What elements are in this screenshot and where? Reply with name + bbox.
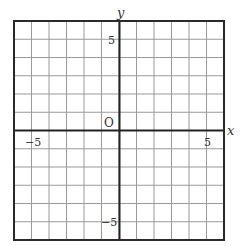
tick-label-y-positive: 5 <box>108 34 115 47</box>
tick-label-x-negative: −5 <box>25 136 41 149</box>
x-axis-label: x <box>227 123 235 138</box>
coordinate-plane: y x O 5 −5 −5 5 <box>0 0 242 246</box>
tick-label-y-negative: −5 <box>101 216 117 229</box>
tick-label-x-positive: 5 <box>204 136 211 149</box>
origin-label: O <box>104 116 114 130</box>
y-axis-label: y <box>116 5 125 20</box>
